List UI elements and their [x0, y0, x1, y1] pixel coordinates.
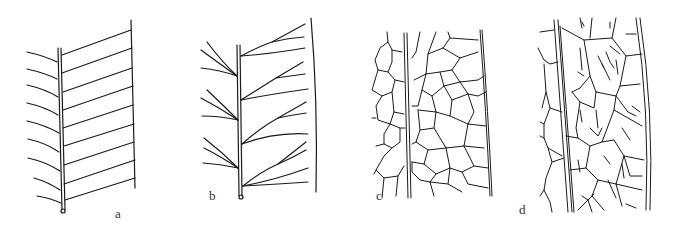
panel-d-drawing: [506, 0, 676, 230]
panel-label-c: c: [376, 188, 382, 204]
panel-label-b: b: [209, 188, 216, 204]
panel-label-a: a: [115, 206, 121, 222]
panel-label-d: d: [519, 202, 526, 218]
panel-b-drawing: [160, 0, 330, 230]
panel-c-drawing: [340, 0, 510, 230]
panel-a-drawing: [0, 0, 170, 230]
